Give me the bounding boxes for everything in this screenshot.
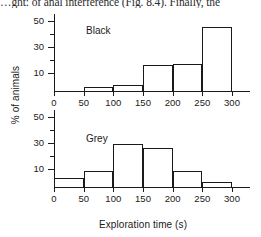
bar-black-250-300 — [202, 27, 232, 91]
x-tick-label-250-black: 250 — [190, 98, 214, 108]
y-tick-label-50-grey: 50 — [28, 112, 44, 122]
bar-grey-50-100 — [84, 171, 114, 187]
chart-panel-grey: 50 30 10 0 50 100 150 200 250 300 Grey — [36, 110, 250, 203]
x-tick-50-grey — [84, 188, 85, 192]
y-axis-line-grey — [54, 110, 55, 188]
x-tick-label-300-black: 300 — [220, 98, 244, 108]
y-tick-label-30-grey: 30 — [28, 138, 44, 148]
x-tick-250-grey — [202, 188, 203, 192]
x-tick-0-black — [54, 92, 55, 96]
x-tick-label-50-black: 50 — [72, 98, 96, 108]
y-tick-40-black — [50, 34, 54, 35]
y-tick-20-grey — [50, 156, 54, 157]
x-tick-label-100-black: 100 — [101, 98, 125, 108]
series-label-black: Black — [86, 26, 110, 36]
bar-black-100-150 — [113, 85, 143, 92]
y-tick-50-black — [48, 21, 54, 22]
y-axis-label: % of animals — [10, 45, 24, 145]
x-axis-label: Exploration time (s) — [36, 219, 250, 230]
x-tick-200-grey — [173, 188, 174, 192]
x-tick-label-200-grey: 200 — [161, 194, 185, 204]
y-tick-30-grey — [48, 143, 54, 144]
bar-grey-0-50 — [54, 178, 84, 187]
x-tick-300-grey — [232, 188, 233, 192]
y-tick-50-grey — [48, 117, 54, 118]
y-tick-10-grey — [48, 169, 54, 170]
x-tick-150-grey — [143, 188, 144, 192]
y-tick-label-10-black: 10 — [28, 68, 44, 78]
x-tick-label-100-grey: 100 — [101, 194, 125, 204]
bar-black-50-100 — [84, 87, 114, 91]
y-tick-label-10-grey: 10 — [28, 164, 44, 174]
x-tick-label-200-black: 200 — [161, 98, 185, 108]
x-tick-label-0-black: 0 — [42, 98, 66, 108]
bar-grey-250-300 — [202, 182, 232, 187]
series-label-grey: Grey — [86, 134, 108, 144]
y-tick-10-black — [48, 73, 54, 74]
y-tick-30-black — [48, 47, 54, 48]
x-tick-label-250-grey: 250 — [190, 194, 214, 204]
y-axis-line-black — [54, 14, 55, 92]
x-tick-250-black — [202, 92, 203, 96]
x-tick-150-black — [143, 92, 144, 96]
x-tick-label-150-grey: 150 — [131, 194, 155, 204]
x-tick-100-black — [113, 92, 114, 96]
chart-panel-black: 50 30 10 0 50 100 150 200 250 300 Black — [36, 14, 250, 107]
bar-grey-200-250 — [173, 171, 203, 187]
x-tick-label-150-black: 150 — [131, 98, 155, 108]
bar-grey-100-150 — [113, 144, 143, 187]
page-body-text: …ght: of anal interference (Fig. 8.4). F… — [0, 0, 261, 8]
x-tick-100-grey — [113, 188, 114, 192]
bar-black-200-250 — [173, 64, 203, 92]
y-tick-label-50-black: 50 — [28, 16, 44, 26]
figure-histograms: % of animals 50 30 10 0 50 100 150 200 2… — [0, 14, 261, 237]
x-tick-0-grey — [54, 188, 55, 192]
bar-grey-150-200 — [143, 148, 173, 187]
y-tick-40-grey — [50, 130, 54, 131]
x-tick-50-black — [84, 92, 85, 96]
y-tick-label-30-black: 30 — [28, 42, 44, 52]
bar-black-150-200 — [143, 65, 173, 91]
x-tick-label-0-grey: 0 — [42, 194, 66, 204]
x-tick-label-300-grey: 300 — [220, 194, 244, 204]
y-tick-20-black — [50, 60, 54, 61]
x-tick-300-black — [232, 92, 233, 96]
x-tick-label-50-grey: 50 — [72, 194, 96, 204]
x-tick-200-black — [173, 92, 174, 96]
